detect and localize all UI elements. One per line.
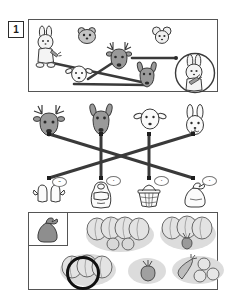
- sack-badge: •: [202, 176, 217, 186]
- mittens-badge: ••: [52, 177, 67, 187]
- sheep-head-figure-top: [66, 64, 92, 83]
- backpack-badge: •: [106, 176, 121, 186]
- sheep-head-figure-mid: [134, 106, 166, 132]
- beet-icon: [141, 260, 155, 281]
- selection-circle-marker: [66, 256, 100, 290]
- group-cabbages-and-turnips-figure[interactable]: [86, 216, 156, 252]
- deer-head-figure-mid: [32, 104, 66, 138]
- deer-head-figure-top: [104, 41, 134, 71]
- group-cabbages-and-beet-figure[interactable]: [160, 216, 218, 250]
- line-deer-to-sack: [49, 134, 193, 178]
- line-rabbit-to-mittens: [49, 134, 193, 178]
- group-single-beet-figure[interactable]: [138, 260, 158, 282]
- rabbit-standing-with-carrot-figure: [33, 26, 61, 68]
- donkey-head-figure-top: [136, 62, 158, 88]
- exercise-number-badge: 1: [8, 21, 24, 38]
- donkey-head-figure-mid: [88, 104, 114, 137]
- mouse-head-figure: [152, 26, 172, 45]
- reference-sack-figure: [36, 216, 62, 243]
- worksheet-page: 1: [0, 0, 236, 302]
- basket-badge: •: [154, 176, 169, 186]
- rabbit-head-figure-mid: [182, 104, 208, 137]
- group-carrot-and-turnips-figure[interactable]: [172, 254, 226, 284]
- rabbit-in-circle-with-carrot-figure: [174, 52, 216, 94]
- hamster-head-figure: [76, 26, 98, 45]
